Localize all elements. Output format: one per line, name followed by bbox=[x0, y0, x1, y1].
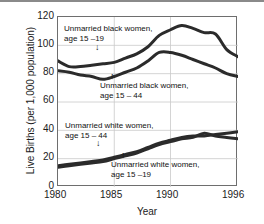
x-tick-1990: 1990 bbox=[156, 189, 178, 200]
annotation-black-15-44-arrow-icon: ↑ bbox=[110, 72, 115, 81]
annotation-white-15-44-line1: Unmarried white women, bbox=[65, 121, 153, 130]
annotation-white-15-19-line2: age 15 –19 bbox=[111, 170, 199, 180]
plot-area: Unmarried black women, age 15 –19 ↓ Unma… bbox=[57, 16, 237, 186]
annotation-white-15-19-line1: Unmarried white women, bbox=[111, 160, 199, 169]
x-tick-1985: 1985 bbox=[100, 189, 122, 200]
x-tick-1980: 1980 bbox=[44, 189, 66, 200]
annotation-black-15-44-line1: Unmarried black women, bbox=[100, 81, 188, 90]
chart-figure: Live Births (per 1,000 population) 120 1… bbox=[0, 0, 264, 224]
annotation-white-15-44: Unmarried white women, age 15 – 44 bbox=[65, 121, 153, 140]
annotation-white-15-19-arrow-icon: ↑ bbox=[121, 151, 126, 160]
annotation-black-15-19-arrow-icon: ↓ bbox=[95, 43, 100, 52]
annotation-white-15-44-arrow-icon: ↓ bbox=[96, 139, 101, 148]
annotation-black-15-44-line2: age 15 – 44 bbox=[100, 91, 188, 101]
annotation-black-15-19-line2: age 15 –19 bbox=[64, 34, 152, 44]
annotation-white-15-19: Unmarried white women, age 15 –19 bbox=[111, 160, 199, 179]
annotation-black-15-19-line1: Unmarried black women, bbox=[64, 24, 152, 33]
annotation-white-15-44-line2: age 15 – 44 bbox=[65, 131, 153, 141]
x-axis-title: Year bbox=[57, 206, 237, 217]
annotation-black-15-44: Unmarried black women, age 15 – 44 bbox=[100, 81, 188, 100]
x-tick-1996: 1996 bbox=[222, 189, 244, 200]
annotation-black-15-19: Unmarried black women, age 15 –19 bbox=[64, 24, 152, 43]
